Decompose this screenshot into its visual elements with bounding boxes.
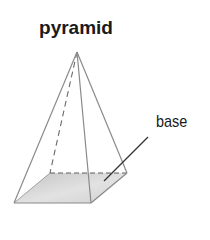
base-label: base: [156, 111, 187, 133]
hidden-edge-apex-back-left: [50, 52, 77, 173]
lateral-edge-back-right: [77, 52, 127, 173]
pyramid-base-face: [14, 173, 127, 203]
